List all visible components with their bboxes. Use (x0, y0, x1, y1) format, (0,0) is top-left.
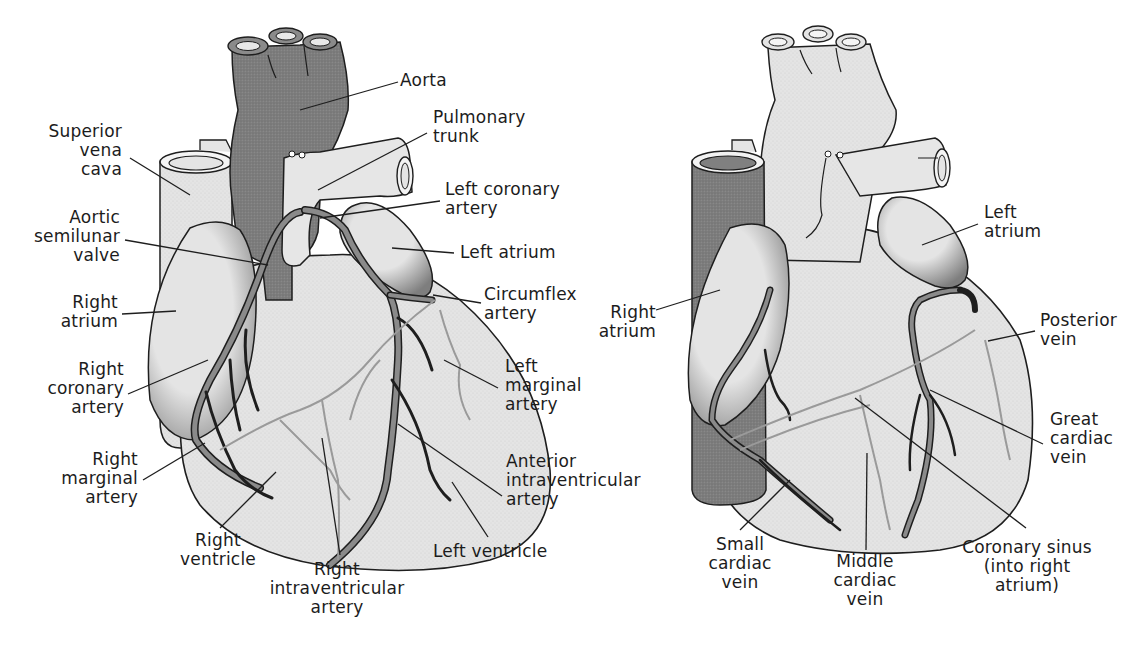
label-anterior-intraventricular-artery: Anterior intraventricular artery (506, 452, 641, 509)
posterior-view (688, 26, 1032, 553)
posterior-aorta-shape (760, 26, 896, 262)
label-middle-cardiac-vein: Middle cardiac vein (815, 552, 915, 609)
label-great-cardiac-vein: Great cardiac vein (1050, 410, 1113, 467)
label-left-marginal-artery: Left marginal artery (505, 357, 582, 414)
label-posterior-left-atrium: Left atrium (984, 203, 1041, 241)
label-posterior-vein: Posterior vein (1040, 311, 1117, 349)
label-aorta: Aorta (400, 71, 447, 90)
label-right-coronary-artery: Right coronary artery (30, 360, 124, 417)
heart-coronary-circulation-diagram: Aorta Pulmonary trunk Superior vena cava… (0, 0, 1143, 658)
label-right-intraventricular-artery: Right intraventricular artery (262, 560, 412, 617)
label-left-ventricle: Left ventricle (433, 542, 547, 561)
label-left-coronary-artery: Left coronary artery (445, 180, 560, 218)
label-right-atrium: Right atrium (42, 293, 118, 331)
label-pulmonary-trunk: Pulmonary trunk (433, 108, 525, 146)
label-left-atrium: Left atrium (460, 243, 556, 262)
label-small-cardiac-vein: Small cardiac vein (690, 535, 790, 592)
label-posterior-right-atrium: Right atrium (588, 303, 656, 341)
label-aortic-semilunar-valve: Aortic semilunar valve (22, 208, 120, 265)
label-superior-vena-cava: Superior vena cava (32, 122, 122, 179)
label-coronary-sinus: Coronary sinus (into right atrium) (952, 538, 1102, 595)
label-circumflex-artery: Circumflex artery (484, 285, 577, 323)
label-right-marginal-artery: Right marginal artery (44, 450, 138, 507)
label-right-ventricle: Right ventricle (168, 531, 268, 569)
